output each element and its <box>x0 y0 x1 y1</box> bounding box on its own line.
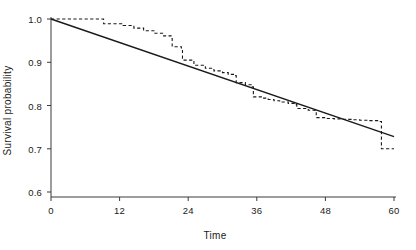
fitted-model-line <box>51 19 394 137</box>
x-tick-label-24: 24 <box>183 205 194 216</box>
x-tick-label-36: 36 <box>251 205 262 216</box>
x-tick-label-12: 12 <box>114 205 125 216</box>
y-tick-marks <box>47 19 51 192</box>
x-tick-label-60: 60 <box>389 205 400 216</box>
kaplan-meier-step-curve <box>51 19 394 149</box>
y-tick-label-1: 1.0 <box>16 14 42 25</box>
x-axis-title: Time <box>203 230 226 241</box>
y-tick-label-3: 0.8 <box>16 100 42 111</box>
y-tick-label-4: 0.7 <box>16 143 42 154</box>
x-tick-label-48: 48 <box>320 205 331 216</box>
survival-plot-figure: 1.0 0.9 0.8 0.7 0.6 0 12 24 36 48 60 Tim… <box>0 0 416 250</box>
x-tick-label-0: 0 <box>48 205 53 216</box>
x-tick-marks <box>51 197 394 201</box>
y-tick-label-2: 0.9 <box>16 57 42 68</box>
plot-canvas <box>0 0 416 250</box>
y-axis-title: Survival probability <box>2 66 13 156</box>
y-tick-label-5: 0.6 <box>16 187 42 198</box>
